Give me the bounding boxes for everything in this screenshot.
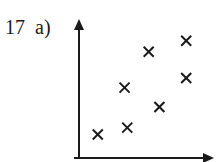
x-marker-icon	[154, 102, 164, 112]
y-axis-arrow-icon	[74, 19, 84, 30]
x-marker-icon	[122, 123, 132, 133]
scatter-plot	[0, 0, 219, 162]
x-axis-arrow-icon	[203, 153, 214, 162]
x-marker-icon	[120, 83, 130, 93]
x-marker-icon	[181, 73, 191, 83]
data-markers	[93, 36, 191, 140]
x-marker-icon	[93, 130, 103, 140]
x-marker-icon	[181, 36, 191, 46]
y-axis	[74, 19, 84, 158]
x-axis	[74, 153, 214, 162]
x-marker-icon	[144, 47, 154, 57]
